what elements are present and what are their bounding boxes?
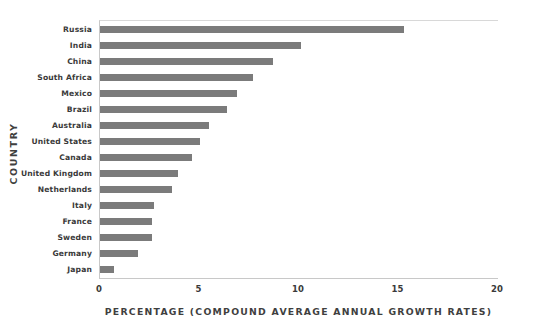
bar-row xyxy=(100,102,498,118)
y-axis-tick-label: Netherlands xyxy=(20,182,96,198)
x-axis-tick-label: 0 xyxy=(79,284,119,294)
bar-row xyxy=(100,165,498,181)
y-axis-tick-label: Canada xyxy=(20,150,96,166)
x-axis-tick-label: 5 xyxy=(179,284,219,294)
bar-row xyxy=(100,22,498,38)
y-axis-tick-label: Germany xyxy=(20,246,96,262)
bar-row xyxy=(100,181,498,197)
bar xyxy=(100,42,301,49)
bar-row xyxy=(100,134,498,150)
bar xyxy=(100,218,152,225)
bar xyxy=(100,26,404,33)
y-axis-tick-label: Russia xyxy=(20,21,96,37)
x-axis-tick-label: 15 xyxy=(378,284,418,294)
y-axis-title-text: COUNTRY xyxy=(8,69,19,239)
bar xyxy=(100,138,200,145)
x-axis-tick-labels: 0 5 10 15 20 xyxy=(0,284,535,298)
bar-row xyxy=(100,38,498,54)
bar-series xyxy=(100,22,498,277)
bar-row xyxy=(100,213,498,229)
y-axis-tick-label: Australia xyxy=(20,117,96,133)
bar xyxy=(100,202,154,209)
x-axis-tick-label: 20 xyxy=(477,284,517,294)
bar xyxy=(100,90,237,97)
bar-row xyxy=(100,118,498,134)
bar xyxy=(100,74,253,81)
bar xyxy=(100,170,178,177)
bar xyxy=(100,250,138,257)
y-axis-tick-label: Japan xyxy=(20,262,96,278)
y-axis-tick-label: Italy xyxy=(20,198,96,214)
bar-row xyxy=(100,150,498,166)
y-axis-tick-label: Sweden xyxy=(20,230,96,246)
y-axis-tick-label: Brazil xyxy=(20,101,96,117)
plot-area xyxy=(99,20,498,279)
bar xyxy=(100,122,209,129)
bar-row xyxy=(100,245,498,261)
bar-row xyxy=(100,70,498,86)
y-axis-tick-label: South Africa xyxy=(20,69,96,85)
y-axis-tick-labels: Russia India China South Africa Mexico B… xyxy=(20,21,96,278)
bar xyxy=(100,186,172,193)
x-axis-title: PERCENTAGE (COMPOUND AVERAGE ANNUAL GROW… xyxy=(99,306,498,317)
y-axis-tick-label: Mexico xyxy=(20,85,96,101)
x-axis-tick-label: 10 xyxy=(278,284,318,294)
bar-row xyxy=(100,261,498,277)
bar xyxy=(100,106,227,113)
bar xyxy=(100,58,273,65)
y-axis-tick-label: United States xyxy=(20,133,96,149)
bar-row xyxy=(100,86,498,102)
bar-chart: COUNTRY Russia India China South Africa … xyxy=(0,0,535,333)
bar-row xyxy=(100,229,498,245)
y-axis-tick-label: India xyxy=(20,37,96,53)
bar xyxy=(100,154,192,161)
bar-row xyxy=(100,54,498,70)
bar xyxy=(100,266,114,273)
y-axis-tick-label: China xyxy=(20,53,96,69)
y-axis-tick-label: United Kingdom xyxy=(20,166,96,182)
bar xyxy=(100,234,152,241)
bar-row xyxy=(100,197,498,213)
y-axis-tick-label: France xyxy=(20,214,96,230)
